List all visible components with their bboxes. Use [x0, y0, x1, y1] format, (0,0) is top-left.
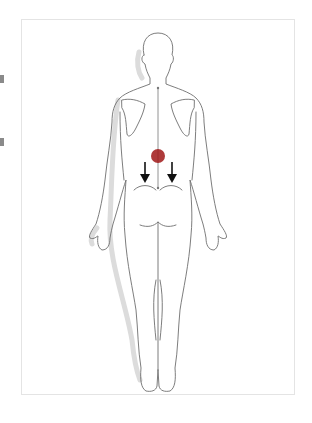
spine [157, 87, 159, 189]
arrow-down-icon-right [167, 162, 177, 183]
pain-marker [151, 149, 165, 163]
right-scapula [171, 99, 194, 136]
body-diagram [0, 0, 312, 423]
left-scapula [122, 99, 145, 136]
body-left-outline [89, 55, 158, 391]
arrow-down-icon-left [140, 162, 150, 183]
